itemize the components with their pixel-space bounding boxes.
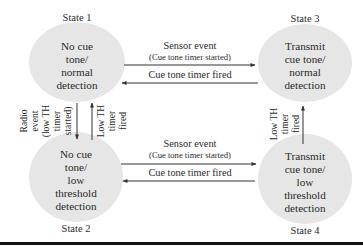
s2-s4-label: Sensor event	[164, 138, 217, 149]
state4-line-3: low	[297, 176, 315, 188]
s2-s4-sublabel: (Cue tone timer started)	[149, 150, 231, 160]
svg-text:timer: timer	[279, 113, 290, 134]
state4-line-2: cue tone/	[285, 163, 327, 175]
svg-text:fired: fired	[117, 112, 128, 130]
state2-line-2: tone/	[65, 161, 88, 173]
svg-text:Low TH: Low TH	[95, 105, 106, 138]
state3-line-2: cue tone/	[285, 53, 327, 65]
state1-line-1: No cue	[61, 40, 93, 52]
state3-line-4: detection	[284, 79, 325, 91]
s3-s1-label: Cue tone timer fired	[148, 69, 232, 80]
svg-text:timer: timer	[106, 110, 117, 131]
s1-s3-label: Sensor event	[164, 40, 217, 51]
state4-line-4: threshold	[284, 189, 326, 201]
s1-s3-sublabel: (Cue tone timer started)	[149, 52, 231, 62]
state2-label: State 2	[62, 223, 91, 234]
state1-line-4: detection	[56, 79, 97, 91]
state4-line-1: Transmit	[285, 150, 326, 162]
state4-label: State 4	[291, 225, 321, 236]
state1-label: State 1	[63, 12, 92, 23]
bottom-rule	[0, 242, 363, 245]
state4-line-5: detection	[284, 202, 325, 214]
state3-line-1: Transmit	[285, 40, 326, 52]
svg-text:fired: fired	[290, 115, 301, 133]
state2-line-3: low	[68, 174, 86, 186]
s4-s2-label: Cue tone timer fired	[148, 167, 232, 178]
svg-text:started): started)	[62, 107, 74, 136]
svg-text:Radio: Radio	[18, 109, 29, 132]
svg-text:timer: timer	[51, 110, 62, 131]
svg-text:Low TH: Low TH	[268, 108, 279, 141]
s2-s1-label: Low TH timer fired	[95, 105, 128, 138]
state2-line-1: No cue	[60, 148, 92, 160]
state3-label: State 3	[291, 13, 320, 24]
state-diagram: State 1 State 3 State 2 State 4 No cue t…	[0, 0, 363, 252]
state1-line-2: tone/	[66, 53, 89, 65]
svg-text:event: event	[29, 110, 40, 131]
state2-line-4: threshold	[55, 187, 97, 199]
state3-line-3: normal	[289, 66, 321, 78]
s1-s2-label: Radio event (low TH timer started)	[18, 105, 74, 138]
state1-line-3: normal	[61, 66, 93, 78]
state2-line-5: detection	[55, 200, 96, 212]
